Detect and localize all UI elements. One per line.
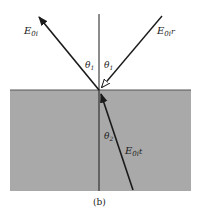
reflected-ray-arrow bbox=[102, 16, 162, 87]
figure-caption: (b) bbox=[93, 197, 106, 207]
incident-ray-arrow bbox=[39, 17, 99, 90]
medium-region bbox=[10, 90, 191, 191]
incident-field-label: E0i bbox=[23, 25, 38, 38]
reflection-refraction-diagram: E0i E0ir θ1 θ1 θ2 E0it (b) bbox=[0, 0, 206, 217]
theta-1-reflected-label: θ1 bbox=[104, 60, 113, 71]
theta-1-incident-label: θ1 bbox=[85, 60, 94, 71]
reflected-field-label: E0ir bbox=[156, 25, 176, 38]
